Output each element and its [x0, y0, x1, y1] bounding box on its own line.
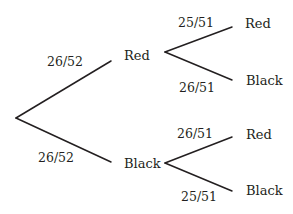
leaf-black-black: Black [246, 184, 283, 197]
tree-branches [0, 0, 293, 214]
prob-root-black: 26/52 [38, 152, 74, 165]
node-red: Red [124, 49, 150, 62]
leaf-red-red: Red [245, 17, 271, 30]
leaf-black-red: Red [246, 128, 272, 141]
prob-black-red: 26/51 [177, 128, 213, 141]
node-black: Black [124, 157, 161, 170]
branch-black-black [165, 163, 232, 191]
probability-tree-diagram: 26/52 26/52 Red Black 25/51 26/51 Red Bl… [0, 0, 293, 214]
prob-red-red: 25/51 [178, 17, 214, 30]
prob-black-black: 25/51 [181, 191, 217, 204]
branch-red-red [165, 27, 232, 52]
prob-root-red: 26/52 [47, 56, 83, 69]
prob-red-black: 26/51 [179, 82, 215, 95]
branch-red-black [165, 52, 232, 80]
leaf-red-black: Black [246, 74, 283, 87]
branch-root-red [16, 61, 111, 118]
